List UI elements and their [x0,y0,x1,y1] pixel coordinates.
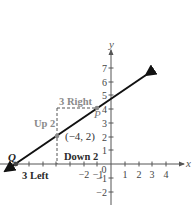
P-label: P [93,108,101,120]
annotation-up-2: Up 2 [34,118,55,129]
point-given [55,134,60,139]
svg-text:2: 2 [102,132,107,143]
svg-text:1: 1 [102,145,107,156]
svg-text:3: 3 [150,169,155,180]
y-axis-label: y [108,38,114,50]
svg-text:2: 2 [137,169,142,180]
x-axis-label: x [185,157,191,169]
given-point-label: (−4, 2) [65,130,95,143]
svg-text:3: 3 [102,118,107,129]
annotation-3-left: 3 Left [22,170,49,181]
svg-text:6: 6 [102,77,107,88]
Q-label: Q [8,151,16,163]
svg-text:7: 7 [102,63,107,74]
svg-text:1: 1 [123,169,128,180]
svg-text:5: 5 [102,90,107,101]
annotation-down-2: Down 2 [64,151,98,162]
x-tick-labels: −2 −1 1 2 3 4 [79,169,169,180]
svg-text:−2: −2 [96,187,107,198]
annotation-3-right: 3 Right [59,96,92,107]
svg-text:4: 4 [164,169,169,180]
coordinate-plane: −2 −1 1 2 3 4 0 7 6 5 4 3 2 1 −1 −2 y x … [0,0,193,209]
svg-text:−1: −1 [96,173,107,184]
y-tick-labels: 7 6 5 4 3 2 1 −1 −2 [96,63,107,198]
svg-text:−2: −2 [79,169,90,180]
